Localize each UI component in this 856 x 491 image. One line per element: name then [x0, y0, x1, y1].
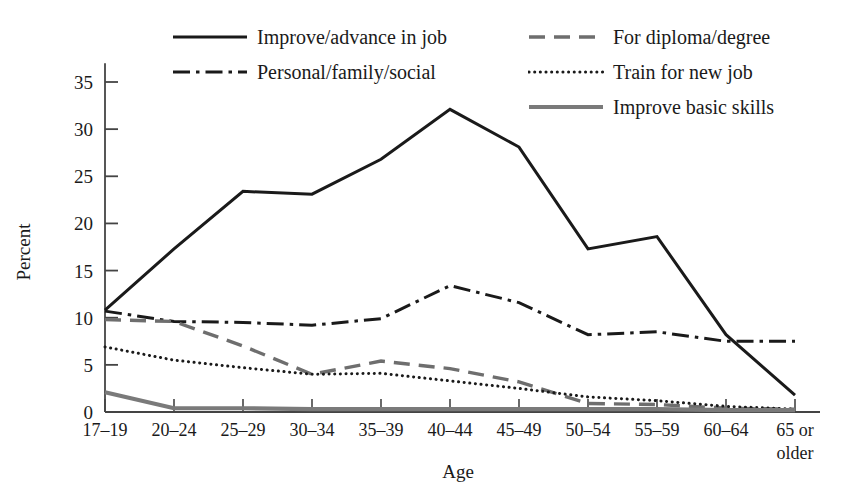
- x-axis-category-label: 25–29: [221, 420, 266, 440]
- x-axis-category-label: 20–24: [152, 420, 197, 440]
- y-axis-tick-label: 5: [84, 355, 94, 376]
- x-axis-category-label: 55–59: [635, 420, 680, 440]
- series-line-0: [105, 109, 795, 395]
- x-axis-category-label: 65 or: [776, 420, 814, 440]
- x-axis-category-label: 17–19: [83, 420, 128, 440]
- y-axis-tick-label: 25: [74, 166, 93, 187]
- x-axis-category-label: 60–64: [704, 420, 749, 440]
- y-axis-tick-label: 20: [74, 213, 93, 234]
- x-axis-category-label: 30–34: [290, 420, 335, 440]
- chart-container: 05101520253035 17–1920–2425–2930–3435–39…: [0, 0, 856, 491]
- x-axis-category-label: 45–49: [497, 420, 542, 440]
- y-axis-tick-label: 35: [74, 72, 93, 93]
- y-axis-tick-label: 10: [74, 308, 93, 329]
- x-axis-category-label: 50–54: [566, 420, 611, 440]
- y-axis-tick-label: 30: [74, 119, 93, 140]
- x-axis-category-label: 35–39: [359, 420, 404, 440]
- y-axis-tick-label: 15: [74, 261, 93, 282]
- x-axis-category-label: 40–44: [428, 420, 473, 440]
- series-group: [105, 109, 795, 410]
- y-axis-title: Percent: [13, 223, 34, 281]
- line-chart-canvas: 05101520253035 17–1920–2425–2930–3435–39…: [0, 0, 856, 491]
- x-axis-title: Age: [442, 461, 474, 482]
- x-axis-category-label: older: [777, 443, 814, 463]
- series-line-2: [105, 320, 795, 410]
